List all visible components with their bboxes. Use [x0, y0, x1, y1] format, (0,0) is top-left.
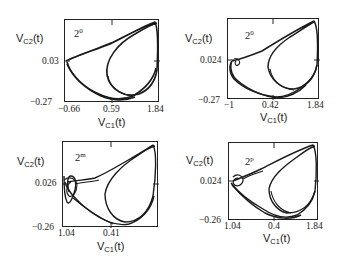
y-tick-top: 0.024	[200, 176, 221, 186]
x-tick-left: −1	[224, 100, 234, 110]
x-tick-right: 1.84	[147, 104, 164, 114]
plot-frame: 20	[64, 19, 159, 102]
x-tick-mid: 0.42	[262, 100, 279, 110]
y-axis-label: VC2(t)	[16, 32, 43, 46]
x-axis-label: VC1(t)	[263, 232, 290, 246]
x-tick-mid: 0.4	[268, 221, 280, 231]
annotation-label: 20	[74, 27, 83, 39]
plot-frame: 20	[227, 18, 319, 99]
y-axis-label: VC2(t)	[185, 32, 212, 46]
x-tick-left: 1.04	[58, 228, 75, 238]
x-tick-left: 1.04	[224, 221, 241, 231]
annotation-label: 2m	[75, 151, 86, 163]
y-tick-top: 0.024	[200, 55, 221, 65]
x-tick-left: −0.66	[58, 104, 80, 114]
y-tick-bottom: −0.26	[32, 222, 54, 232]
x-axis-label: VC1(t)	[98, 116, 125, 130]
y-tick-bottom: −0.27	[30, 97, 52, 107]
phase-trajectory	[229, 143, 319, 221]
x-tick-right: 1.84	[307, 100, 324, 110]
phase-trajectory	[228, 19, 320, 100]
x-axis-label: VC1(t)	[260, 111, 287, 125]
x-axis-label: VC1(t)	[97, 240, 124, 254]
y-axis-label: VC2(t)	[17, 155, 44, 169]
y-tick-bottom: −0.26	[199, 215, 221, 225]
y-tick-top: 0.026	[35, 178, 56, 188]
plot-frame: 2p	[228, 142, 318, 220]
y-axis-label: VC2(t)	[186, 154, 213, 168]
x-tick-right: 1.84	[306, 221, 323, 231]
y-tick-top: 0.03	[42, 56, 59, 66]
x-tick-mid: 0.59	[103, 104, 120, 114]
y-tick-bottom: −0.27	[198, 95, 220, 105]
annotation-label: 2p	[245, 155, 254, 167]
plot-frame: 2m	[62, 141, 158, 227]
x-tick-mid: 0.41	[103, 228, 120, 238]
annotation-label: 20	[245, 29, 254, 41]
